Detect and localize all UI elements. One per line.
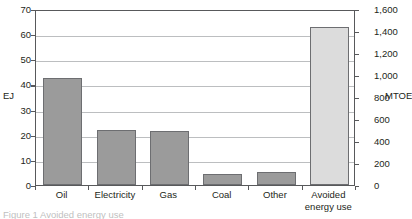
category-tick-mark: [248, 186, 249, 190]
category-label-line: Gas: [142, 189, 195, 201]
bar-series: [36, 11, 354, 185]
bar: [257, 172, 296, 185]
category-tick-mark: [195, 186, 196, 190]
right-tick-mark: [355, 54, 359, 55]
left-tick-label: 70: [5, 5, 31, 15]
left-tick-label: 60: [5, 30, 31, 40]
right-tick-label: 200: [374, 159, 390, 169]
right-tick-mark: [355, 10, 359, 11]
plot-area: [35, 10, 355, 186]
right-tick-mark: [355, 76, 359, 77]
category-label-line: Coal: [195, 189, 248, 201]
right-tick-label: 1,600: [374, 5, 398, 15]
left-tick-label: 0: [5, 181, 31, 191]
right-tick-mark: [355, 120, 359, 121]
cut-off-caption: Figure 1 Avoided energy use: [3, 210, 303, 219]
category-label-line: Electricity: [88, 189, 141, 201]
left-tick-label: 40: [5, 80, 31, 90]
right-tick-mark: [355, 98, 359, 99]
right-axis-ticks: 1,6001,4001,2001,0008006004002000: [362, 0, 412, 219]
category-label-line: Avoided: [302, 189, 355, 201]
right-tick-label: 400: [374, 137, 390, 147]
category-label: Oil: [35, 189, 88, 201]
right-tick-mark: [355, 164, 359, 165]
category-label: Other: [248, 189, 301, 201]
bar: [203, 174, 242, 185]
bar: [310, 27, 349, 185]
right-tick-label: 800: [374, 93, 390, 103]
category-label: Electricity: [88, 189, 141, 201]
left-axis-ticks: 706050403020100: [4, 0, 31, 219]
bar: [150, 131, 189, 185]
category-tick-mark: [355, 186, 356, 190]
category-tick-mark: [302, 186, 303, 190]
category-label-line: energy use: [302, 201, 355, 213]
category-label: Coal: [195, 189, 248, 201]
left-tick-label: 50: [5, 55, 31, 65]
category-label: Gas: [142, 189, 195, 201]
category-label-line: Other: [248, 189, 301, 201]
right-tick-label: 0: [374, 181, 379, 191]
category-label: Avoidedenergy use: [302, 189, 355, 212]
bar: [43, 78, 82, 185]
right-tick-mark: [355, 142, 359, 143]
left-tick-label: 30: [5, 106, 31, 116]
right-tick-label: 1,000: [374, 71, 398, 81]
left-tick-label: 10: [5, 156, 31, 166]
category-tick-mark: [88, 186, 89, 190]
bar-chart: EJ MTOE 706050403020100 1,6001,4001,2001…: [0, 0, 412, 219]
bar: [97, 130, 136, 185]
category-label-line: Oil: [35, 189, 88, 201]
left-tick-label: 20: [5, 131, 31, 141]
cut-off-caption-text: Figure 1 Avoided energy use: [3, 210, 303, 219]
right-tick-label: 600: [374, 115, 390, 125]
category-tick-mark: [35, 186, 36, 190]
category-tick-mark: [142, 186, 143, 190]
right-tick-mark: [355, 32, 359, 33]
right-tick-label: 1,200: [374, 49, 398, 59]
right-tick-label: 1,400: [374, 27, 398, 37]
